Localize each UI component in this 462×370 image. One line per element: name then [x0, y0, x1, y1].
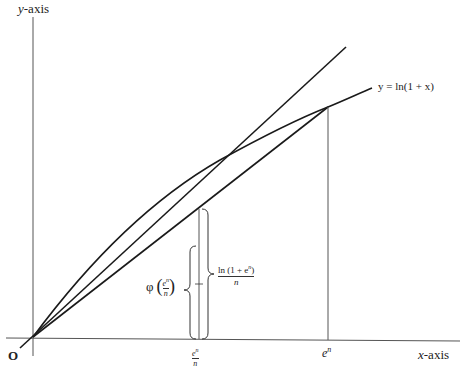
- chord-line: [33, 107, 328, 337]
- en-over-n-tick-label: en n: [192, 346, 199, 368]
- x-axis-line: [6, 338, 460, 341]
- ln-fraction-label: ln (1 + en) n: [218, 262, 254, 288]
- ln-brace: [202, 209, 214, 339]
- y-axis-label: y-axis: [18, 1, 49, 17]
- origin-label: O: [8, 348, 18, 364]
- en-tick-label: en: [322, 345, 331, 361]
- x-axis-label: x-axis: [418, 347, 449, 363]
- ln-curve: [33, 88, 372, 337]
- phi-brace: [184, 246, 196, 339]
- tangent-line: [20, 47, 346, 348]
- curve-label: y = ln(1 + x): [378, 80, 434, 92]
- diagram-canvas: [0, 0, 462, 370]
- phi-label: φ ( en n ): [146, 276, 175, 298]
